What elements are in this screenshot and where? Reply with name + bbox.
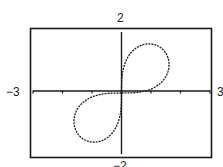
- plot-area: [0, 0, 223, 167]
